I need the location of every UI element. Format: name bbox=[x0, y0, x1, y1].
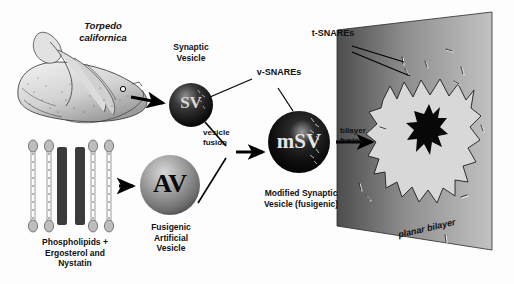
synaptic-vesicle-label: Synaptic Vesicle bbox=[152, 42, 230, 63]
t-snares-label: t-SNAREs bbox=[297, 28, 369, 39]
v-snares-label: v-SNAREs bbox=[242, 67, 316, 78]
synaptic-vesicle-sphere bbox=[169, 83, 213, 127]
modified-vesicle-label: Modified Synaptic Vesicle (fusigenic) bbox=[240, 188, 362, 209]
artificial-vesicle-sphere bbox=[140, 155, 200, 215]
lipid-bilayer-illustration bbox=[28, 140, 113, 232]
figure-canvas: SV AV mSV Torpedo californica Synaptic V… bbox=[0, 0, 514, 284]
modified-vesicle-sphere bbox=[268, 111, 330, 173]
vesicle-fusion-label: vesicle fusion bbox=[203, 128, 251, 147]
lipid-composition-label: Phospholipids + Ergosterol and Nystatin bbox=[5, 237, 145, 269]
torpedo-ray-illustration bbox=[18, 32, 147, 123]
fusigenic-vesicle-label: Fusigenic Artificial Vesicle bbox=[136, 222, 206, 254]
bilayer-fusion-label: bilayer fusion bbox=[340, 126, 384, 145]
organism-label: Torpedo californica bbox=[60, 20, 146, 43]
